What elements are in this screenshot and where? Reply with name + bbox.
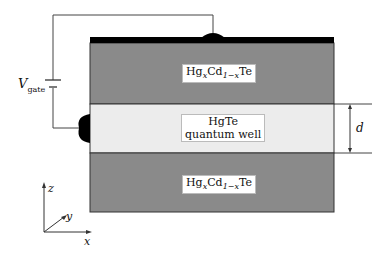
gate-contact-bump [201,33,225,38]
vgate-label: Vgate [18,76,45,94]
y-axis [44,217,64,232]
side-contact [78,114,90,143]
y-axis-label: y [66,210,72,223]
top-barrier-label: HgxCd1−xTe [182,64,256,83]
z-axis-label: z [48,182,54,195]
thickness-label: d [356,121,364,135]
x-axis-label: x [84,235,90,248]
bottom-barrier-label: HgxCd1−xTe [182,175,256,194]
gate-wire-bottom [53,88,80,128]
quantum-well-label: HgTequantum well [181,114,265,142]
